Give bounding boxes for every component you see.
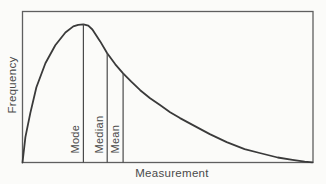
mean-label: Mean	[109, 125, 121, 154]
skewed-distribution-figure: Mode Median Mean Frequency Measurement	[0, 0, 326, 184]
plot-frame	[23, 12, 314, 163]
median-label: Median	[93, 116, 105, 154]
y-axis-label: Frequency	[6, 56, 18, 113]
plot-canvas: Mode Median Mean Frequency Measurement	[0, 0, 326, 184]
mode-label: Mode	[69, 125, 81, 154]
distribution-curve	[23, 24, 313, 162]
x-axis-label: Measurement	[135, 167, 209, 179]
